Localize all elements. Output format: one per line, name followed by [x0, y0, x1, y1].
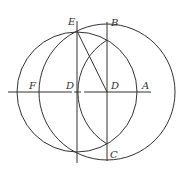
segment-e-d [77, 31, 107, 92]
label-f: F [28, 80, 37, 91]
label-b: B [110, 17, 118, 28]
label-d-right: D [110, 80, 119, 91]
label-c: C [110, 149, 118, 160]
label-e: E [67, 16, 76, 27]
geometry-diagram: E B F D D A C [0, 0, 178, 169]
label-a: A [141, 80, 149, 91]
label-d-left: D [65, 80, 74, 91]
